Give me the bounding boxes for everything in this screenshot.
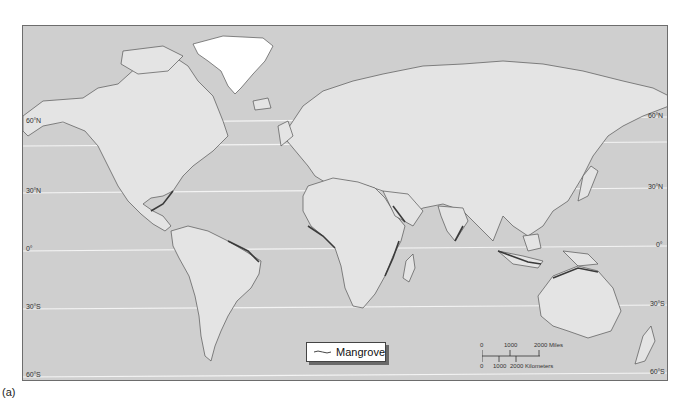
india	[438, 206, 468, 241]
iceland	[253, 98, 271, 110]
map-legend: Mangrove	[306, 342, 386, 362]
new-guinea	[563, 251, 598, 266]
scale-miles-1000: 1000	[504, 342, 517, 348]
lat-label-30n-left: 30°N	[26, 187, 41, 194]
landmasses	[23, 36, 668, 364]
lat-label-60s-left: 60°S	[26, 371, 40, 378]
scale-km-0: 0	[480, 363, 483, 369]
australia	[538, 266, 621, 338]
scale-miles-0: 0	[480, 342, 483, 348]
lat-label-equator-left: 0°	[26, 245, 32, 252]
scale-ruler	[482, 350, 540, 362]
lat-label-30s-left: 30°S	[26, 303, 40, 310]
scale-km-1000: 1000	[493, 363, 506, 369]
lat-label-30s-right: 30°S	[650, 300, 664, 307]
scale-bar: 0 1000 2000 Miles 0 1000 2000 Kilometers	[478, 342, 588, 376]
scale-miles-2000: 2000 Miles	[534, 342, 563, 348]
lat-label-60n-right: 60°N	[648, 112, 663, 119]
map-canvas	[23, 26, 668, 381]
world-map	[22, 25, 668, 381]
south-america	[171, 226, 261, 361]
lat-label-30n-right: 30°N	[648, 183, 663, 190]
greenland	[193, 36, 273, 94]
madagascar	[403, 254, 415, 282]
new-zealand	[635, 326, 655, 364]
legend-label: Mangrove	[336, 346, 385, 358]
borneo	[523, 234, 541, 251]
figure-caption: (a)	[2, 386, 15, 398]
north-america	[23, 56, 228, 231]
lat-label-equator-right: 0°	[656, 241, 662, 248]
scale-km-2000: 2000 Kilometers	[510, 363, 553, 369]
lat-label-60n-left: 60°N	[26, 117, 41, 124]
lat-label-60s-right: 60°S	[650, 368, 664, 375]
mangrove-line-icon	[314, 347, 331, 357]
